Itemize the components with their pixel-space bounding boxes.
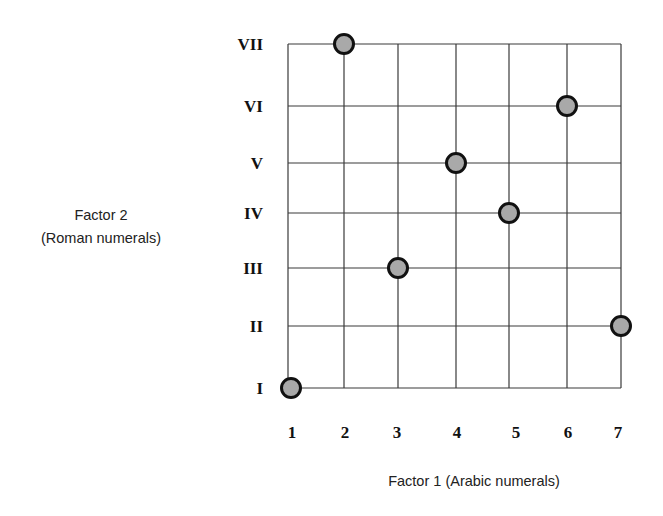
y-tick-label: V <box>251 154 264 173</box>
x-tick-label: 7 <box>614 423 623 442</box>
latin-square-scatter-chart: IIIIIIIVVVIVII 1234567 Factor 2 (Roman n… <box>0 0 663 516</box>
data-point-7-II <box>612 317 631 336</box>
data-point-5-IV <box>500 204 519 223</box>
grid <box>288 44 621 388</box>
x-axis-label: Factor 1 (Arabic numerals) <box>388 473 560 489</box>
x-tick-label: 6 <box>564 423 573 442</box>
x-axis-tick-labels: 1234567 <box>288 423 623 442</box>
x-tick-label: 1 <box>288 423 297 442</box>
x-tick-label: 5 <box>512 423 521 442</box>
y-axis-label-line1: Factor 2 <box>74 207 127 223</box>
y-tick-label: I <box>256 379 263 398</box>
y-tick-label: VII <box>237 35 263 54</box>
data-point-6-VI <box>558 97 577 116</box>
y-axis-label-line2: (Roman numerals) <box>41 230 161 246</box>
data-point-1-I <box>282 379 301 398</box>
y-tick-label: IV <box>244 204 264 223</box>
x-tick-label: 4 <box>453 423 462 442</box>
x-tick-label: 2 <box>341 423 350 442</box>
y-tick-label: II <box>250 317 264 336</box>
y-axis-tick-labels: IIIIIIIVVVIVII <box>237 35 263 398</box>
data-point-2-VII <box>335 35 354 54</box>
data-point-3-III <box>389 259 408 278</box>
y-tick-label: VI <box>244 97 263 116</box>
x-tick-label: 3 <box>393 423 402 442</box>
y-tick-label: III <box>243 259 263 278</box>
data-point-4-V <box>447 154 466 173</box>
